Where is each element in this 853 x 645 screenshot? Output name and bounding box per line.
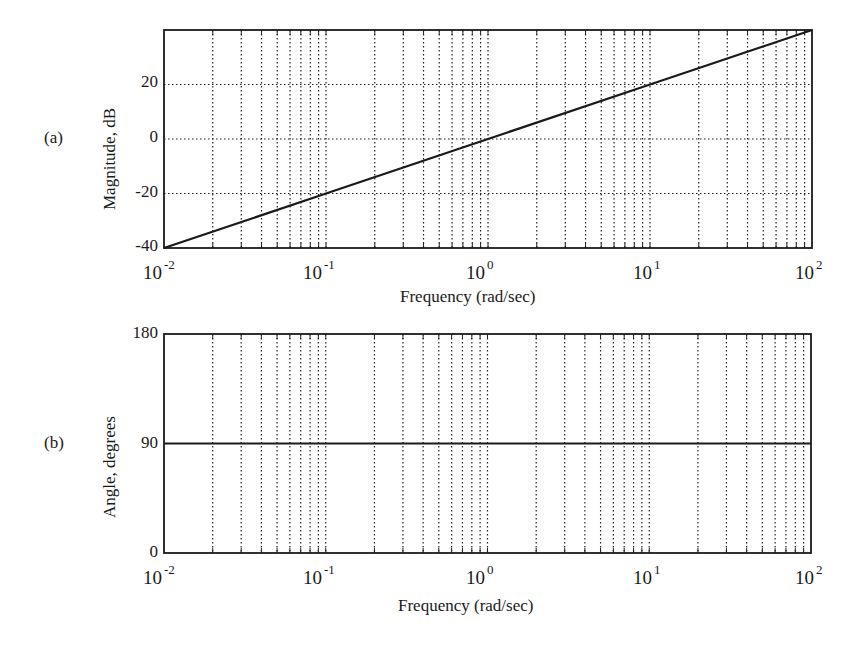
xtick-a-1e-1: 10-1 — [303, 260, 335, 284]
ytick-b-0: 0 — [118, 542, 158, 562]
panel-label-a: (a) — [44, 128, 63, 148]
panel-label-b: (b) — [44, 433, 64, 453]
ylabel-magnitude: Magnitude, dB — [100, 108, 120, 210]
xtick-b-1e0: 100 — [466, 565, 494, 589]
xtick-b-1e2: 102 — [795, 565, 823, 589]
ytick-b-180: 180 — [118, 323, 158, 343]
ytick-b-90: 90 — [118, 433, 158, 453]
xtick-a-1e0: 100 — [466, 260, 494, 284]
xtick-b-1e-1: 10-1 — [303, 565, 335, 589]
xtick-a-1e-2: 10-2 — [143, 260, 175, 284]
bode-figure: (a) Magnitude, dB 20 0 -20 -40 10-2 10-1… — [0, 0, 853, 645]
xlabel-a: Frequency (rad/sec) — [400, 287, 535, 307]
ytick-a-0: 0 — [118, 127, 158, 147]
xlabel-b: Frequency (rad/sec) — [398, 596, 533, 616]
ylabel-angle: Angle, degrees — [100, 416, 120, 518]
xtick-b-1e1: 101 — [633, 565, 661, 589]
xtick-a-1e1: 101 — [633, 260, 661, 284]
ytick-a-minus40: -40 — [118, 236, 158, 256]
ytick-a-minus20: -20 — [118, 182, 158, 202]
xtick-b-1e-2: 10-2 — [143, 565, 175, 589]
ytick-a-20: 20 — [118, 72, 158, 92]
xtick-a-1e2: 102 — [795, 260, 823, 284]
